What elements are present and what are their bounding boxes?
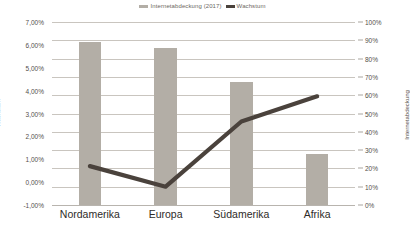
plot-area <box>52 22 355 205</box>
y-axis-right-tickmark <box>358 150 363 151</box>
y-axis-right-tick: 0% <box>365 202 374 209</box>
y-axis-left-tick: -1,00% <box>23 202 44 209</box>
y-axis-right-tick: 20% <box>365 165 378 172</box>
y-axis-right-tick: 100% <box>365 19 382 26</box>
y-axis-left-title: Wachstum <box>0 99 1 127</box>
x-axis-category-label: Afrika <box>279 208 355 230</box>
y-axis-right-tick: 10% <box>365 183 378 190</box>
y-axis-right-tickmark <box>358 22 363 23</box>
y-axis-right-title: Internetabdeckung <box>404 90 410 140</box>
y-axis-right-tickmark <box>358 58 363 59</box>
y-axis-right-tick: 60% <box>365 92 378 99</box>
y-axis-left-tick: 1,00% <box>26 156 44 163</box>
legend-label-wachstum: Wachstum <box>237 3 266 9</box>
y-axis-right-tickmark <box>358 186 363 187</box>
legend-item-internetabdeckung[interactable]: Internetabdeckung (2017) <box>139 3 221 9</box>
x-axis-categories: NordamerikaEuropaSüdamerikaAfrika <box>52 208 355 230</box>
y-axis-left-tick: 0,00% <box>26 179 44 186</box>
y-axis-right-tickmark <box>358 168 363 169</box>
y-axis-right-tick: 40% <box>365 128 378 135</box>
y-axis-right-tickmark <box>358 76 363 77</box>
y-axis-left-tick: 3,00% <box>26 110 44 117</box>
y-axis-right: 100%90%80%70%60%50%40%30%20%10%0% <box>357 22 397 205</box>
y-axis-left: 7,00%6,00%5,00%4,00%3,00%2,00%1,00%0,00%… <box>2 22 48 205</box>
legend-bar-swatch-icon <box>139 5 148 8</box>
y-axis-right-tickmark <box>358 113 363 114</box>
y-axis-right-tickmark <box>358 40 363 41</box>
x-axis-category-label: Südamerika <box>204 208 280 230</box>
y-axis-right-tick: 70% <box>365 73 378 80</box>
y-axis-right-tick: 30% <box>365 147 378 154</box>
y-axis-right-tick: 80% <box>365 55 378 62</box>
x-axis-category-label: Nordamerika <box>52 208 128 230</box>
y-axis-right-tick: 90% <box>365 37 378 44</box>
y-axis-right-tick: 50% <box>365 110 378 117</box>
y-axis-right-tickmark <box>358 95 363 96</box>
gridline <box>52 205 355 206</box>
line-series <box>52 22 355 205</box>
y-axis-left-tick: 6,00% <box>26 41 44 48</box>
legend-label-internetabdeckung: Internetabdeckung (2017) <box>150 3 221 9</box>
y-axis-left-tick: 2,00% <box>26 133 44 140</box>
legend-item-wachstum[interactable]: Wachstum <box>226 3 266 9</box>
y-axis-left-tick: 5,00% <box>26 64 44 71</box>
chart-legend: Internetabdeckung (2017) Wachstum <box>0 3 405 9</box>
y-axis-left-tick: 7,00% <box>26 19 44 26</box>
x-axis-category-label: Europa <box>128 208 204 230</box>
y-axis-right-tickmark <box>358 131 363 132</box>
y-axis-left-tick: 4,00% <box>26 87 44 94</box>
y-axis-right-tickmark <box>358 205 363 206</box>
legend-line-swatch-icon <box>226 5 235 8</box>
